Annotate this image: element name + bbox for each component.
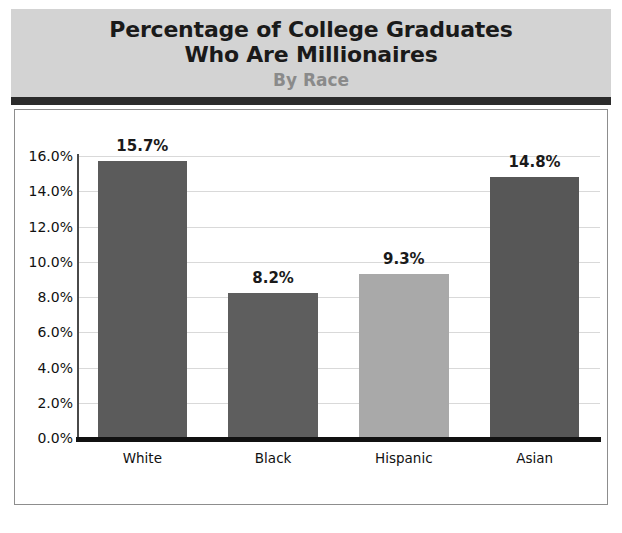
bar-value-label-asian: 14.8%: [490, 153, 580, 171]
x-axis-label-white: White: [98, 450, 188, 466]
y-axis-tick-label: 16.0%: [17, 148, 73, 164]
chart-plot-panel: 0.0%2.0%4.0%6.0%8.0%10.0%12.0%14.0%16.0%…: [14, 109, 608, 505]
y-axis-tick-label: 10.0%: [17, 254, 73, 270]
y-axis-tick-label: 8.0%: [17, 289, 73, 305]
y-axis-tick-label: 14.0%: [17, 183, 73, 199]
x-axis-label-black: Black: [228, 450, 318, 466]
x-axis-label-hispanic: Hispanic: [359, 450, 449, 466]
y-axis-tick-labels: 0.0%2.0%4.0%6.0%8.0%10.0%12.0%14.0%16.0%: [15, 156, 73, 438]
y-axis-tick-label: 6.0%: [17, 324, 73, 340]
plot-area: 15.7%8.2%9.3%14.8%: [77, 156, 600, 438]
y-axis-tick-label: 12.0%: [17, 219, 73, 235]
chart-title-line-1: Percentage of College Graduates: [11, 17, 611, 42]
y-axis-tick-label: 2.0%: [17, 395, 73, 411]
y-axis-tick-label: 0.0%: [17, 430, 73, 446]
x-axis-label-asian: Asian: [490, 450, 580, 466]
bar-white: [98, 161, 188, 438]
bar-value-label-hispanic: 9.3%: [359, 250, 449, 268]
chart-subtitle: By Race: [11, 69, 611, 91]
bar-value-label-black: 8.2%: [228, 269, 318, 287]
bar-asian: [490, 177, 580, 438]
title-divider-rule: [11, 97, 611, 105]
chart-title-banner: Percentage of College Graduates Who Are …: [11, 9, 611, 97]
x-axis-baseline: [76, 437, 601, 442]
bar-black: [228, 293, 318, 438]
bar-value-label-white: 15.7%: [98, 137, 188, 155]
bar-hispanic: [359, 274, 449, 438]
chart-figure: Percentage of College Graduates Who Are …: [0, 0, 622, 533]
y-axis-tick-label: 4.0%: [17, 360, 73, 376]
chart-title-line-2: Who Are Millionaires: [11, 42, 611, 67]
y-axis-line: [77, 154, 79, 440]
